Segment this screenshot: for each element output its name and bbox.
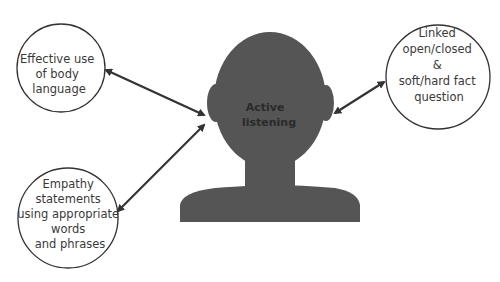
node-text-line: statements [36,192,101,206]
arrow-questions-to-ear [335,82,384,113]
node-empathy-text: Empathy statements using appropriate wor… [17,177,122,251]
node-text-line: language [32,82,86,96]
center-label-line: Active [246,101,285,114]
arrow-body-language-to-ear [106,70,204,115]
left-ear [207,84,225,122]
right-ear [318,85,334,121]
diagram-canvas: Active listening Effective use of body l… [0,0,500,282]
node-text-line: Effective use [20,52,94,66]
node-text-line: Empathy [42,177,94,191]
center-label-line: listening [242,116,296,129]
node-text-line: Linked [418,26,456,40]
node-text-line: question [414,90,464,104]
node-text-line: soft/hard fact [399,74,476,88]
node-text-line: open/closed [402,42,472,56]
node-text-line: of body [36,67,79,81]
node-text-line: and phrases [35,237,106,251]
head [214,32,326,168]
node-questions-text: Linked open/closed & soft/hard fact ques… [399,26,480,104]
node-text-line: & [433,58,442,72]
shoulders [180,185,360,222]
node-body-language-text: Effective use of body language [20,52,98,96]
node-text-line: words [51,222,85,236]
node-text-line: using appropriate [17,207,119,221]
